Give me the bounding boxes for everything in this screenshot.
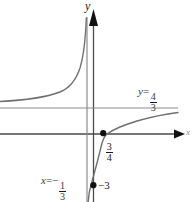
x-intercept-numerator: 3 [106, 142, 113, 152]
x-intercept-denominator: 4 [106, 152, 113, 163]
y-axis [89, 9, 98, 202]
ha-label-fraction: 43 [150, 92, 157, 113]
x-intercept-label: 34 [105, 136, 113, 163]
va-label-sign: − [52, 174, 58, 186]
y-intercept-label: −3 [98, 180, 110, 191]
x-axis-arrowhead [174, 130, 185, 139]
vertical-asymptote-label: x=−13 [41, 175, 67, 202]
y-axis-label: y [85, 0, 90, 12]
y-intercept-point [90, 182, 96, 188]
ha-label-denominator: 3 [150, 102, 157, 113]
y-axis-arrowhead [89, 9, 98, 26]
ha-label-numerator: 4 [150, 92, 157, 102]
graph-canvas [0, 0, 193, 202]
horizontal-asymptote-label: y=43 [138, 86, 157, 113]
va-label-numerator: 1 [59, 181, 66, 191]
rational-function-figure: y x y=43 x=−13 34 −3 [0, 0, 193, 202]
x-intercept-fraction: 34 [106, 142, 113, 163]
x-axis-label: x [186, 128, 190, 137]
ha-label-equals: = [143, 85, 149, 97]
va-label-denominator: 3 [59, 191, 66, 202]
va-label-fraction: 13 [59, 181, 66, 202]
x-axis [0, 130, 185, 139]
curve-left-branch [0, 18, 86, 102]
